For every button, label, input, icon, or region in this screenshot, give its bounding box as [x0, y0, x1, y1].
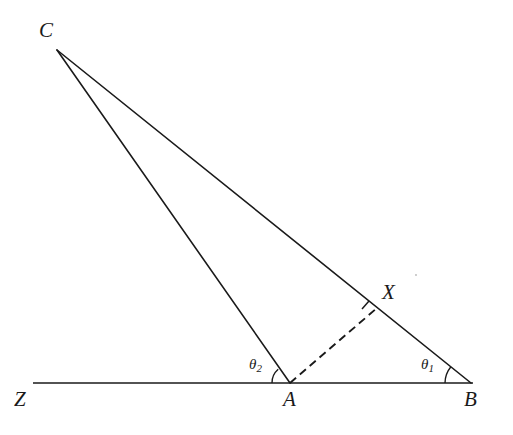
theta1-subscript: 1 — [428, 362, 434, 374]
label-point-z: Z — [14, 389, 26, 410]
tick-at-X-icon — [362, 301, 369, 309]
label-point-c: C — [39, 20, 53, 41]
segment-CB — [57, 50, 471, 383]
theta2-subscript: 2 — [256, 362, 262, 374]
label-angle-theta2: θ2 — [249, 357, 262, 374]
geometry-diagram: C A B X Z θ2 θ1 — [0, 0, 513, 435]
label-angle-theta1: θ1 — [421, 357, 434, 374]
scan-speck — [415, 274, 417, 276]
label-point-x: X — [382, 282, 395, 303]
angle-arc-theta1 — [445, 367, 451, 383]
label-point-a: A — [283, 389, 296, 410]
label-point-b: B — [464, 389, 477, 410]
angle-arc-theta2 — [272, 369, 278, 383]
segment-CA — [57, 50, 290, 383]
segment-AX — [290, 308, 377, 383]
